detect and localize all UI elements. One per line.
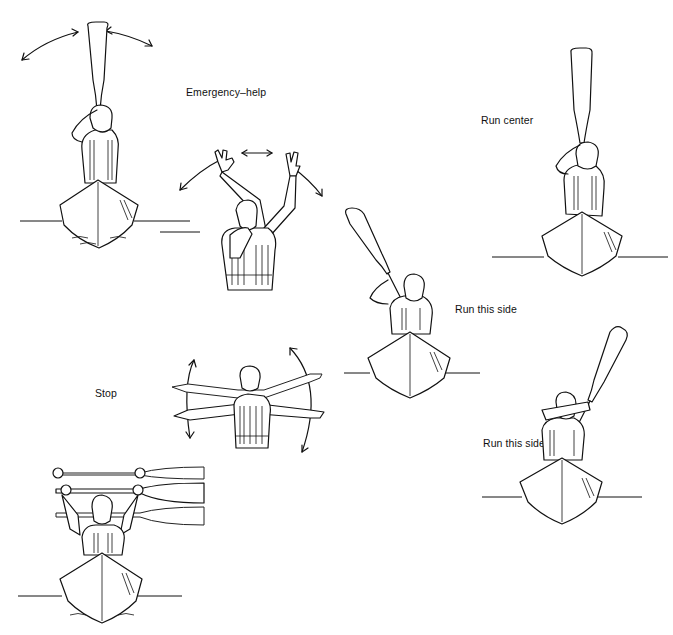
kayak xyxy=(520,458,602,524)
signal-run-center xyxy=(480,40,670,270)
run-center-illustration xyxy=(480,40,670,270)
signal-run-this-side-right xyxy=(470,320,670,540)
paddle xyxy=(56,483,204,503)
paddle-blade xyxy=(588,327,627,402)
arrow-right-icon xyxy=(106,31,152,46)
signal-paddle-overhead xyxy=(10,455,230,635)
paddle-blade xyxy=(88,22,108,110)
paddle-overhead-illustration xyxy=(10,455,230,635)
emergency-help-illustration xyxy=(160,110,340,300)
signal-emergency-help xyxy=(160,110,340,300)
run-this-side-left-illustration xyxy=(330,200,480,400)
kayak xyxy=(60,180,138,248)
arrow-left-icon xyxy=(22,32,78,60)
paddle-blade xyxy=(346,208,390,274)
label-stop: Stop xyxy=(95,387,117,399)
arrow-left-icon xyxy=(180,160,220,190)
signal-stop xyxy=(160,340,340,460)
paddle-blade xyxy=(571,48,592,143)
arrow-right-icon xyxy=(290,348,311,452)
paddle-ghost-upper xyxy=(56,467,204,479)
kayak xyxy=(60,553,142,623)
signal-run-this-side-left xyxy=(330,200,480,400)
label-emergency-help: Emergency–help xyxy=(186,86,266,98)
stop-illustration xyxy=(160,340,340,460)
arrow-left-icon xyxy=(187,360,194,438)
run-this-side-right-illustration xyxy=(470,320,670,540)
kayak xyxy=(368,332,450,398)
